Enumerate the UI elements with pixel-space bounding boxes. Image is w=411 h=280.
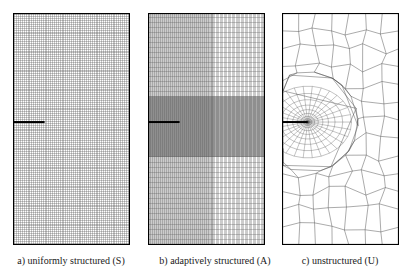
- mesh-panel-unstructured: [282, 13, 399, 245]
- mesh-diagram-c: [282, 13, 399, 245]
- mesh-panel-adaptively-structured: [148, 13, 265, 245]
- mesh-diagram-b: [148, 13, 265, 245]
- mesh-panel-uniformly-structured: [13, 13, 130, 245]
- mesh-comparison-figure: a) uniformly structured (S) b) adaptivel…: [0, 0, 411, 280]
- caption-panel-a: a) uniformly structured (S): [0, 254, 146, 267]
- mesh-diagram-a: [13, 13, 130, 245]
- caption-panel-c: c) unstructured (U): [265, 254, 411, 267]
